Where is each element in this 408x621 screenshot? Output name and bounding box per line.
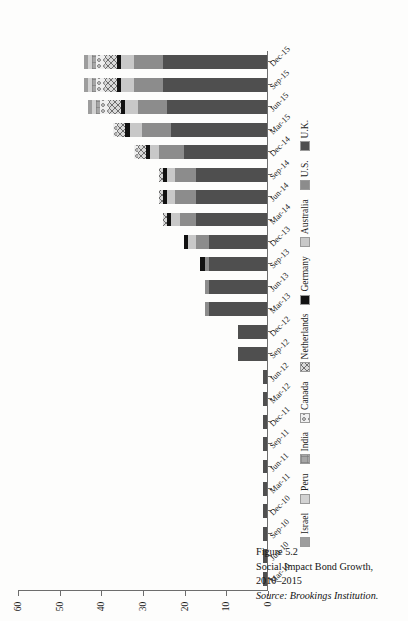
legend-swatch-icon xyxy=(300,295,310,305)
legend-item-australia[interactable]: Australia xyxy=(300,199,310,247)
legend-item-netherlands[interactable]: Netherlands xyxy=(300,314,310,373)
value-tick xyxy=(226,591,227,596)
figure-caption: Figure 5.2 Social Impact Bond Growth, 20… xyxy=(256,545,401,603)
bar-segment xyxy=(263,392,267,406)
bar-segment xyxy=(196,168,267,182)
bar-segment xyxy=(263,415,267,429)
category-tick-label: Mar-12 xyxy=(268,382,292,406)
stacked-bar[interactable] xyxy=(263,437,267,451)
legend-label: India xyxy=(300,432,310,452)
category-tick-label: Dec-15 xyxy=(268,45,292,69)
stacked-bar[interactable] xyxy=(205,302,267,316)
bar-slot: Mar-15 xyxy=(18,118,267,140)
legend-swatch-icon xyxy=(300,494,310,504)
stacked-bar[interactable] xyxy=(205,280,267,294)
category-tick-label: Sep-10 xyxy=(268,517,291,540)
stacked-bar[interactable] xyxy=(159,168,267,182)
chart-legend: IsraelPeruIndiaCanadaNetherlandsGermanyA… xyxy=(300,120,310,547)
bar-segment xyxy=(130,123,143,137)
legend-label: Australia xyxy=(300,199,310,234)
bar-segment xyxy=(105,55,118,69)
figure-number: Figure 5.2 xyxy=(256,545,401,559)
bar-slot: Sep-11 xyxy=(18,433,267,455)
category-tick-label: Dec-12 xyxy=(268,314,292,338)
legend-item-germany[interactable]: Germany xyxy=(300,256,310,304)
value-tick-label: 50 xyxy=(55,602,65,612)
bar-segment xyxy=(167,168,175,182)
value-tick-label: 60 xyxy=(13,602,23,612)
bar-slot: Jun-14 xyxy=(18,186,267,208)
legend-label: Peru xyxy=(300,473,310,490)
category-tick-label: Mar-15 xyxy=(268,112,292,136)
stacked-bar[interactable] xyxy=(263,460,267,474)
bar-segment xyxy=(209,235,267,249)
category-tick-label: Mar-13 xyxy=(268,292,292,316)
stacked-bar[interactable] xyxy=(238,347,267,361)
stacked-bar[interactable] xyxy=(184,235,267,249)
value-tick-label: 20 xyxy=(180,602,190,612)
bar-segment xyxy=(196,213,267,227)
bar-segment xyxy=(163,55,267,69)
stacked-bar[interactable] xyxy=(263,392,267,406)
bar-segment xyxy=(105,78,118,92)
category-tick-label: Dec-13 xyxy=(268,225,292,249)
bar-slot: Sep-12 xyxy=(18,343,267,365)
stacked-bar[interactable] xyxy=(238,325,267,339)
stacked-bar[interactable] xyxy=(88,100,267,114)
bar-segment xyxy=(96,78,104,92)
category-tick-label: Mar-11 xyxy=(268,472,292,496)
stacked-bar[interactable] xyxy=(263,415,267,429)
bar-segment xyxy=(196,190,267,204)
bar-segment xyxy=(134,78,163,92)
stacked-bar[interactable] xyxy=(263,370,267,384)
bar-segment xyxy=(142,123,171,137)
legend-label: U.S. xyxy=(300,160,310,177)
legend-item-india[interactable]: India xyxy=(300,432,310,465)
legend-label: Israel xyxy=(300,513,310,534)
bar-segment xyxy=(209,302,267,316)
stacked-bar[interactable] xyxy=(159,190,267,204)
bar-segment xyxy=(196,235,209,249)
stacked-bar[interactable] xyxy=(84,78,267,92)
category-tick-label: Sep-12 xyxy=(268,337,291,360)
category-tick-label: Jun-12 xyxy=(268,361,290,383)
category-tick-label: Dec-10 xyxy=(268,494,292,518)
bar-segment xyxy=(263,504,267,518)
stacked-bar[interactable] xyxy=(200,257,267,271)
legend-item-israel[interactable]: Israel xyxy=(300,513,310,547)
bar-segment xyxy=(180,213,197,227)
bar-segment xyxy=(163,78,267,92)
category-tick-label: Jun-15 xyxy=(268,91,290,113)
legend-item-peru[interactable]: Peru xyxy=(300,473,310,503)
bar-slot: Dec-10 xyxy=(18,500,267,522)
legend-label: Germany xyxy=(300,256,310,291)
bar-segment xyxy=(167,190,175,204)
bar-slot: Jun-15 xyxy=(18,96,267,118)
bar-segment xyxy=(263,527,267,541)
value-tick xyxy=(18,591,19,596)
bar-segment xyxy=(171,123,267,137)
bar-segment xyxy=(100,100,108,114)
legend-item-u-k[interactable]: U.K. xyxy=(300,120,310,151)
stacked-bar[interactable] xyxy=(263,482,267,496)
legend-item-canada[interactable]: Canada xyxy=(300,381,310,423)
legend-swatch-icon xyxy=(300,413,310,423)
bar-segment xyxy=(117,123,125,137)
stacked-bar[interactable] xyxy=(84,55,267,69)
value-tick xyxy=(143,591,144,596)
bar-segment xyxy=(263,437,267,451)
stacked-bar[interactable] xyxy=(113,123,267,137)
stacked-bar[interactable] xyxy=(163,213,267,227)
bar-segment xyxy=(238,325,267,339)
legend-item-u-s[interactable]: U.S. xyxy=(300,160,310,190)
stacked-bar[interactable] xyxy=(263,527,267,541)
legend-swatch-icon xyxy=(300,237,310,247)
legend-swatch-icon xyxy=(300,180,310,190)
stacked-bar[interactable] xyxy=(263,504,267,518)
category-tick-label: Jun-14 xyxy=(268,181,290,203)
bar-slot: Dec-15 xyxy=(18,51,267,73)
bar-segment xyxy=(109,100,122,114)
bar-slot: Sep-10 xyxy=(18,523,267,545)
stacked-bar[interactable] xyxy=(134,145,267,159)
bar-segment xyxy=(209,257,267,271)
